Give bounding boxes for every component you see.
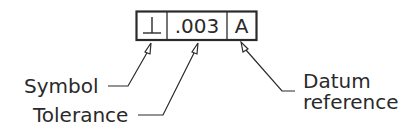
symbol-label: Symbol [24,74,99,98]
arrowhead-icon [192,43,198,54]
symbol-leader [108,43,151,86]
perpendicularity-icon [143,17,161,33]
tolerance-label: Tolerance [32,103,128,127]
arrowhead-icon [145,43,151,54]
feature-control-frame-diagram: .003 A Symbol Tolerance Datum reference [0,0,417,129]
datum-letter: A [235,14,249,38]
datum-leader [241,42,295,91]
tolerance-value: .003 [175,14,220,38]
datum-label-line2: reference [303,90,399,114]
